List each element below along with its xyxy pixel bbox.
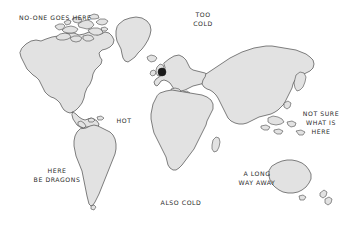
landmass-new-zealand bbox=[320, 190, 332, 205]
map-label-also-cold: ALSO COLD bbox=[155, 199, 207, 208]
world-map: NO-ONE GOES HERE TOO COLD HOT NOT SURE W… bbox=[0, 0, 349, 227]
landmass-africa bbox=[151, 90, 220, 170]
landmass-iceland bbox=[147, 55, 157, 62]
map-label-no-one-goes-here: NO-ONE GOES HERE bbox=[19, 14, 92, 23]
location-marker-icon[interactable] bbox=[158, 68, 166, 76]
map-label-too-cold: TOO COLD bbox=[186, 11, 220, 29]
map-label-here-be-dragons: HERE BE DRAGONS bbox=[26, 167, 88, 185]
map-label-not-sure-what-is-here: NOT SURE WHAT IS HERE bbox=[297, 110, 345, 137]
map-label-hot: HOT bbox=[112, 117, 136, 126]
landmass-greenland bbox=[116, 17, 151, 62]
landmass-north-america bbox=[20, 32, 114, 128]
map-label-a-long-way-away: A LONG WAY AWAY bbox=[233, 170, 281, 188]
